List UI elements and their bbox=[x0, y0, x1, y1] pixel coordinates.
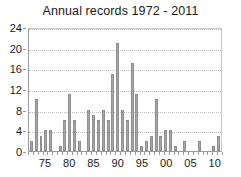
bar[interactable] bbox=[73, 120, 76, 151]
bar[interactable] bbox=[164, 130, 167, 151]
bar[interactable] bbox=[159, 136, 162, 152]
y-tick-label: 8 bbox=[16, 105, 22, 117]
chart-title: Annual records 1972 - 2011 bbox=[0, 4, 241, 18]
bar[interactable] bbox=[155, 99, 158, 151]
y-tick-label: 16 bbox=[10, 63, 22, 75]
x-tick-label: 95 bbox=[136, 157, 148, 169]
x-tick-label: 00 bbox=[160, 157, 172, 169]
bar[interactable] bbox=[111, 74, 114, 152]
x-axis: 7580859095000510 bbox=[28, 155, 222, 173]
bar[interactable] bbox=[217, 136, 220, 152]
x-tick-label: 90 bbox=[112, 157, 124, 169]
bar[interactable] bbox=[63, 120, 66, 151]
x-tick-label: 75 bbox=[39, 157, 51, 169]
bar-chart: Annual records 1972 - 2011 04812162024 7… bbox=[0, 0, 241, 177]
bar[interactable] bbox=[198, 141, 201, 151]
bar-slot bbox=[216, 29, 221, 151]
x-tick-mark-minor bbox=[222, 152, 223, 155]
y-tick-mark bbox=[23, 49, 26, 50]
y-tick-label: 0 bbox=[16, 146, 22, 158]
y-tick-label: 12 bbox=[10, 84, 22, 96]
bar[interactable] bbox=[78, 141, 81, 151]
bar[interactable] bbox=[140, 146, 143, 151]
bar-series bbox=[29, 29, 221, 151]
bar[interactable] bbox=[135, 94, 138, 151]
bar[interactable] bbox=[131, 63, 134, 151]
y-tick-label: 20 bbox=[10, 43, 22, 55]
x-tick-label: 10 bbox=[209, 157, 221, 169]
bar[interactable] bbox=[87, 110, 90, 151]
y-tick-mark bbox=[23, 28, 26, 29]
bar[interactable] bbox=[44, 130, 47, 151]
y-tick-label: 4 bbox=[16, 125, 22, 137]
bar[interactable] bbox=[35, 99, 38, 151]
bar[interactable] bbox=[102, 110, 105, 151]
y-tick-mark bbox=[23, 90, 26, 91]
bar[interactable] bbox=[150, 136, 153, 152]
bar[interactable] bbox=[174, 146, 177, 151]
y-tick-mark bbox=[23, 111, 26, 112]
bar[interactable] bbox=[49, 130, 52, 151]
bar[interactable] bbox=[169, 130, 172, 151]
bar[interactable] bbox=[212, 146, 215, 151]
x-tick-label: 85 bbox=[87, 157, 99, 169]
x-tick-label: 80 bbox=[63, 157, 75, 169]
bar[interactable] bbox=[68, 94, 71, 151]
bar[interactable] bbox=[92, 115, 95, 151]
y-tick-mark bbox=[23, 69, 26, 70]
bar[interactable] bbox=[40, 136, 43, 152]
y-axis: 04812162024 bbox=[0, 0, 26, 177]
bar[interactable] bbox=[145, 141, 148, 151]
bar[interactable] bbox=[183, 141, 186, 151]
bar[interactable] bbox=[97, 120, 100, 151]
y-tick-label: 24 bbox=[10, 22, 22, 34]
bar[interactable] bbox=[107, 120, 110, 151]
bar[interactable] bbox=[121, 110, 124, 151]
bar[interactable] bbox=[116, 43, 119, 152]
y-tick-mark bbox=[23, 131, 26, 132]
bar[interactable] bbox=[30, 141, 33, 151]
bar[interactable] bbox=[126, 120, 129, 151]
bar[interactable] bbox=[59, 146, 62, 151]
x-tick-label: 05 bbox=[184, 157, 196, 169]
plot-area bbox=[28, 28, 222, 152]
y-tick-mark bbox=[23, 152, 26, 153]
